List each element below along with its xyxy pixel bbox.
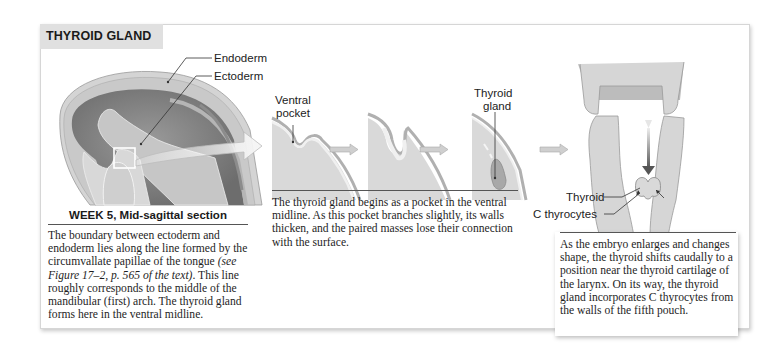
- pocket-stage-1: [272, 118, 360, 200]
- pocket-caption-text: The thyroid gland begins as a pocket in …: [272, 196, 520, 249]
- larynx-caption-text: As the embryo enlarges and changes shape…: [560, 238, 738, 317]
- embryo-section-illustration: [60, 71, 262, 205]
- label-c-thyrocytes: C thyrocytes: [533, 208, 597, 221]
- larynx-caption-rule: [560, 232, 736, 233]
- label-thyroid-gland-line2: gland: [483, 100, 511, 113]
- label-ventral-pocket-line1: Ventral: [275, 94, 311, 107]
- label-endoderm: Endoderm: [214, 52, 267, 65]
- stage-arrow-3: [540, 144, 568, 155]
- stage-arrow-2: [420, 144, 448, 155]
- pocket-stage-3: [472, 112, 526, 200]
- label-ectoderm: Ectoderm: [214, 70, 263, 83]
- pocket-stage-2: [368, 114, 450, 200]
- embryo-caption-heading: WEEK 5, Mid-sagittal section: [48, 209, 248, 221]
- label-ventral-pocket-line2: pocket: [276, 107, 310, 120]
- label-thyroid-gland-line1: Thyroid: [474, 87, 512, 100]
- pocket-caption-rule: [272, 190, 518, 191]
- embryo-caption-rule: [48, 224, 248, 225]
- label-thyroid: Thyroid: [566, 191, 604, 204]
- embryo-caption-text: The boundary between ectoderm and endode…: [48, 229, 253, 321]
